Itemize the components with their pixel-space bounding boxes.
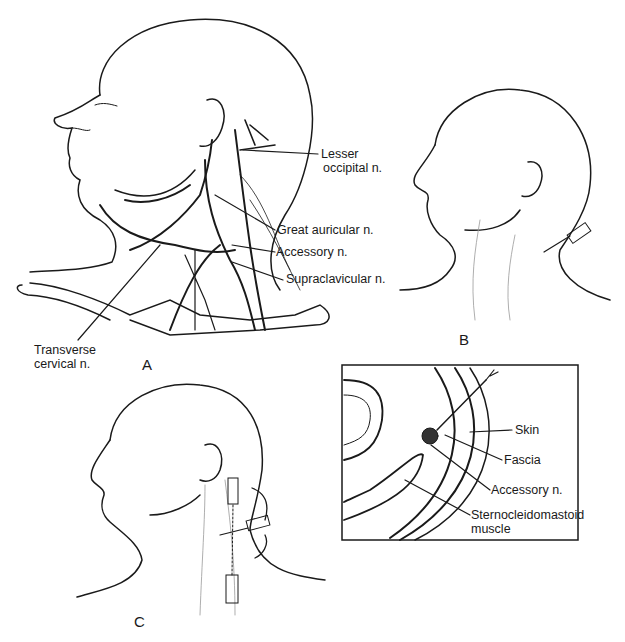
panel-label-a: A <box>142 356 152 373</box>
label-accessory-a: Accessory n. <box>276 245 348 259</box>
label-skin: Skin <box>515 423 539 437</box>
label-transverse-cervical-line1: Transverse <box>34 343 96 357</box>
label-fascia: Fascia <box>504 453 541 467</box>
panel-c-head-drawing <box>77 384 325 615</box>
panel-b-head-drawing <box>400 89 610 320</box>
label-supraclavicular: Supraclavicular n. <box>286 272 385 286</box>
label-scm-line2: muscle <box>471 522 511 536</box>
panel-a-head-drawing <box>17 19 329 340</box>
label-lesser-occipital-line2: occipital n. <box>323 161 382 175</box>
panel-label-b: B <box>459 331 469 348</box>
panel-label-c: C <box>134 613 145 630</box>
label-scm-line1: Sternocleidomastoid <box>471 508 584 522</box>
illustration-canvas <box>0 0 625 642</box>
label-great-auricular: Great auricular n. <box>277 223 374 237</box>
label-accessory-inset: Accessory n. <box>491 483 563 497</box>
label-transverse-cervical-line2: cervical n. <box>34 357 90 371</box>
label-lesser-occipital-line1: Lesser <box>321 147 359 161</box>
